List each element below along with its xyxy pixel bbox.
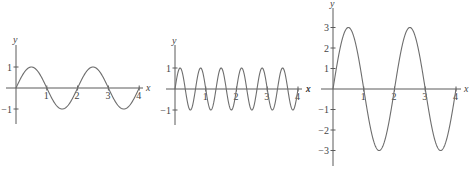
y-tick-label: 1 [166, 63, 171, 74]
y-tick-label: 3 [324, 22, 329, 33]
graph-3-stray-x-label: x [305, 83, 311, 94]
graph-1-x-label: x [145, 82, 151, 93]
y-tick-label: −1 [318, 104, 329, 115]
graph-2-sin-3pi-x: x y 12341−1 [160, 35, 311, 125]
y-tick-label: 1 [324, 63, 329, 74]
y-tick-label: 2 [324, 43, 329, 54]
figure-canvas: x y 12341−1 x y 12341−1 x x y 1234321−1−… [0, 0, 469, 171]
y-tick-label: −3 [318, 145, 329, 156]
graph-1-y-label: y [12, 34, 18, 45]
y-tick-label: 1 [7, 62, 12, 73]
graph-1-sin-pi-x: x y 12341−1 [1, 34, 151, 124]
graph-2-y-label: y [171, 35, 177, 46]
graph-3-y-label: y [329, 0, 335, 9]
graph-3-x-label: x [463, 83, 469, 94]
y-tick-label: −1 [1, 104, 12, 115]
y-tick-label: −2 [318, 125, 329, 136]
graph-3-3sin-pi-x: x x y 1234321−1−2−3 [305, 0, 469, 166]
y-tick-label: −1 [160, 105, 171, 116]
